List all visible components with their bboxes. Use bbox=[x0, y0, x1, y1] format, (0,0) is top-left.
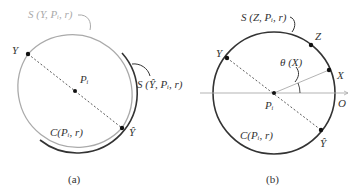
diagram-canvas: Y Pᵢ Ŷ C(Pᵢ, r) S (Y, Pᵢ, r) S (Ŷ, Pᵢ, r… bbox=[0, 0, 360, 190]
label-yhat-b: Ŷ bbox=[320, 137, 328, 149]
arc-pointer-light-a bbox=[78, 15, 91, 30]
point-z-b bbox=[309, 43, 313, 47]
label-y-a: Y bbox=[12, 44, 20, 56]
point-pi-a bbox=[73, 89, 77, 93]
arc-label-light-a: S (Y, Pᵢ, r) bbox=[28, 8, 73, 21]
point-yhat-b bbox=[319, 128, 323, 132]
arc-label-b: S (Z, Pᵢ, r) bbox=[241, 11, 287, 24]
label-pi-a: Pᵢ bbox=[79, 73, 89, 85]
caption-b: (b) bbox=[266, 173, 279, 186]
panel-a: Y Pᵢ Ŷ C(Pᵢ, r) S (Y, Pᵢ, r) S (Ŷ, Pᵢ, r… bbox=[12, 8, 183, 186]
point-y-b bbox=[225, 56, 229, 60]
point-x-b bbox=[327, 68, 331, 72]
point-pi-b bbox=[272, 91, 276, 95]
point-yhat-a bbox=[120, 126, 124, 130]
circle-label-a: C(Pᵢ, r) bbox=[50, 126, 83, 139]
label-y-b: Y bbox=[216, 47, 224, 59]
arc-label-dark-a: S (Ŷ, Pᵢ, r) bbox=[137, 78, 183, 91]
arc-pointer-b bbox=[290, 17, 295, 32]
angle-pointer-b bbox=[295, 67, 299, 82]
label-yhat-a: Ŷ bbox=[129, 126, 137, 138]
point-y-a bbox=[26, 52, 30, 56]
label-angle-b: θ (X) bbox=[280, 56, 303, 69]
label-z-b: Z bbox=[315, 30, 322, 42]
panel-b: Y Pᵢ Ŷ Z X O θ (X) C(Pᵢ, r) S (Z, Pᵢ, r)… bbox=[200, 11, 348, 186]
angle-arc-b bbox=[298, 83, 300, 93]
circle-label-b: C(Pᵢ, r) bbox=[240, 129, 273, 142]
caption-a: (a) bbox=[68, 173, 81, 186]
label-origin-b: O bbox=[338, 97, 346, 109]
label-x-b: X bbox=[336, 69, 345, 81]
ray-x-b bbox=[274, 70, 329, 93]
label-pi-b: Pᵢ bbox=[264, 99, 274, 111]
